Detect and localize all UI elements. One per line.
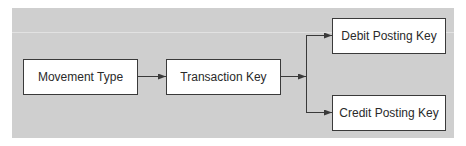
node-movement-type: Movement Type (23, 59, 138, 95)
node-credit-posting-key: Credit Posting Key (332, 95, 446, 131)
node-transaction-key: Transaction Key (166, 59, 281, 95)
node-label: Movement Type (38, 70, 123, 84)
node-label: Debit Posting Key (341, 29, 436, 43)
node-label: Transaction Key (180, 70, 266, 84)
node-debit-posting-key: Debit Posting Key (332, 18, 446, 54)
node-label: Credit Posting Key (339, 106, 438, 120)
